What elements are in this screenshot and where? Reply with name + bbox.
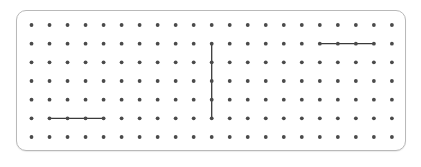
grid-dot — [228, 60, 232, 64]
grid-dot — [318, 135, 322, 139]
grid-dot — [102, 60, 106, 64]
grid-dot — [246, 135, 250, 139]
grid-dot — [156, 60, 160, 64]
grid-dot — [228, 42, 232, 46]
grid-dot — [174, 23, 178, 27]
grid-dot — [372, 116, 376, 120]
grid-dot — [30, 42, 34, 46]
grid-dot — [30, 79, 34, 83]
grid-dot — [156, 23, 160, 27]
grid-dot — [48, 23, 52, 27]
grid-dot — [84, 135, 88, 139]
grid-dot — [66, 60, 70, 64]
grid-dot — [246, 79, 250, 83]
grid-dot — [156, 79, 160, 83]
grid-dot — [246, 23, 250, 27]
grid-dot — [354, 23, 358, 27]
grid-dot — [102, 135, 106, 139]
grid-dot — [282, 79, 286, 83]
grid-dot — [66, 98, 70, 102]
grid-dot — [48, 98, 52, 102]
grid-dot — [282, 135, 286, 139]
grid-dot — [228, 23, 232, 27]
dot-grid — [0, 0, 421, 167]
grid-dot — [192, 60, 196, 64]
grid-dot — [120, 79, 124, 83]
grid-dot — [282, 116, 286, 120]
grid-dot — [210, 60, 214, 64]
grid-dot — [138, 116, 142, 120]
grid-dot — [192, 116, 196, 120]
grid-dot — [264, 98, 268, 102]
grid-dot — [210, 98, 214, 102]
grid-dot — [120, 135, 124, 139]
grid-dot — [354, 42, 358, 46]
grid-dot — [354, 98, 358, 102]
grid-dot — [282, 98, 286, 102]
grid-dot — [372, 23, 376, 27]
grid-dot — [282, 60, 286, 64]
grid-dot — [30, 60, 34, 64]
grid-dot — [264, 79, 268, 83]
grid-dot — [300, 60, 304, 64]
grid-dot — [30, 116, 34, 120]
grid-dot — [210, 116, 214, 120]
grid-dot — [390, 135, 394, 139]
grid-dot — [138, 42, 142, 46]
grid-dot — [120, 42, 124, 46]
grid-dot — [156, 98, 160, 102]
grid-dot — [102, 23, 106, 27]
grid-dot — [66, 116, 70, 120]
grid-dot — [354, 116, 358, 120]
grid-dot — [300, 116, 304, 120]
grid-dot — [192, 98, 196, 102]
grid-dot — [336, 23, 340, 27]
grid-dot — [228, 116, 232, 120]
grid-dot — [192, 42, 196, 46]
grid-dot — [156, 42, 160, 46]
grid-dot — [84, 60, 88, 64]
grid-dot — [390, 23, 394, 27]
grid-dot — [156, 116, 160, 120]
grid-dot — [156, 135, 160, 139]
grid-dot — [66, 135, 70, 139]
grid-dot — [264, 42, 268, 46]
grid-dot — [336, 135, 340, 139]
grid-dot — [390, 79, 394, 83]
grid-dot — [390, 116, 394, 120]
grid-dot — [246, 42, 250, 46]
grid-dot — [174, 60, 178, 64]
grid-dot — [102, 98, 106, 102]
grid-dot — [66, 42, 70, 46]
grid-dot — [210, 42, 214, 46]
grid-dot — [174, 135, 178, 139]
grid-dot — [372, 98, 376, 102]
grid-dot — [318, 42, 322, 46]
grid-dot — [138, 79, 142, 83]
grid-dot — [192, 135, 196, 139]
grid-dot — [372, 42, 376, 46]
grid-dot — [336, 116, 340, 120]
grid-dot — [372, 135, 376, 139]
grid-dots — [30, 23, 394, 139]
grid-dot — [120, 98, 124, 102]
grid-dot — [102, 116, 106, 120]
grid-dot — [210, 23, 214, 27]
grid-dot — [264, 135, 268, 139]
grid-dot — [192, 23, 196, 27]
grid-dot — [48, 79, 52, 83]
grid-dot — [120, 23, 124, 27]
grid-dot — [264, 60, 268, 64]
grid-dot — [246, 98, 250, 102]
grid-dot — [84, 42, 88, 46]
grid-dot — [102, 42, 106, 46]
grid-dot — [318, 79, 322, 83]
grid-dot — [30, 23, 34, 27]
grid-dot — [300, 42, 304, 46]
grid-dot — [174, 98, 178, 102]
grid-dot — [48, 135, 52, 139]
grid-dot — [66, 23, 70, 27]
grid-dot — [264, 116, 268, 120]
grid-dot — [246, 116, 250, 120]
grid-dot — [354, 135, 358, 139]
